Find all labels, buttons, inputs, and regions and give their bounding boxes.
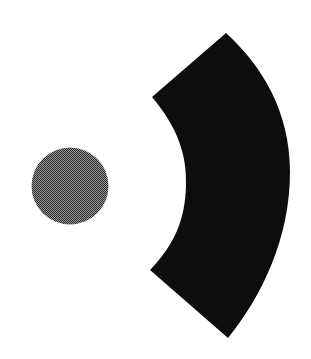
figure-canvas: Two geometric shapes on white background — [0, 0, 311, 359]
shapes-svg: Two geometric shapes on white background — [0, 0, 311, 359]
circle-shape — [32, 148, 109, 225]
shape-gray-circle — [32, 148, 109, 225]
